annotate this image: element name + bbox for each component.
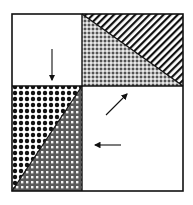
arrow-up-right-icon bbox=[106, 94, 127, 115]
square-diagram bbox=[0, 0, 193, 205]
